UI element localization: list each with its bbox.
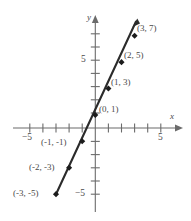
x-axis-arrow (175, 125, 183, 132)
point-label-1-3: (1, 3) (111, 78, 131, 87)
point-label-0-1: (0, 1) (99, 105, 119, 114)
y-tick-label-5: 5 (81, 55, 86, 65)
point-label-3-7: (3, 7) (137, 24, 157, 33)
point-label-neg2-neg3: (-2, -3) (29, 163, 55, 172)
point-label-2-5: (2, 5) (124, 51, 144, 60)
point-label-neg1-neg1: (-1, -1) (41, 138, 67, 147)
x-axis-label: x (170, 112, 174, 121)
graph-figure: y x −5 5 5 −5 (3, 7) (2, 5) (1, 3) (0, 1… (0, 0, 191, 221)
x-tick-label-neg5: −5 (22, 133, 32, 143)
y-axis-arrow (92, 15, 99, 23)
x-tick-label-5: 5 (158, 133, 163, 143)
y-axis-label: y (87, 13, 91, 22)
point-label-neg3-neg5: (-3, -5) (13, 189, 39, 198)
y-tick-label-neg5: −5 (75, 189, 85, 199)
